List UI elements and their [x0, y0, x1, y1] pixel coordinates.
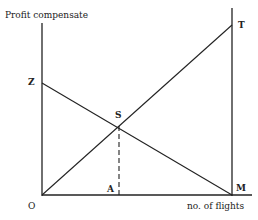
diagram-canvas: [0, 0, 258, 220]
y-axis-label: Profit compensate: [5, 11, 88, 20]
point-a-label: A: [107, 185, 114, 194]
x-axis-label: no. of flights: [187, 202, 244, 211]
point-m-label: M: [236, 184, 246, 193]
point-origin-label: O: [28, 202, 35, 211]
line-zm: [42, 83, 232, 195]
point-t-label: T: [238, 21, 245, 30]
line-ot: [42, 25, 232, 195]
point-z-label: Z: [28, 78, 35, 87]
point-s-label: S: [115, 111, 122, 120]
